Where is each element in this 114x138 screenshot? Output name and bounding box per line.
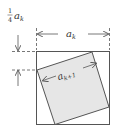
- inscribed-squares-diagram: ak 1 4 ak ak+1: [0, 0, 114, 138]
- fraction-numerator: 1: [8, 7, 12, 15]
- label-ak-top: ak: [66, 28, 76, 41]
- label-quarter-ak: ak: [14, 10, 24, 23]
- fraction-denominator: 4: [8, 16, 12, 24]
